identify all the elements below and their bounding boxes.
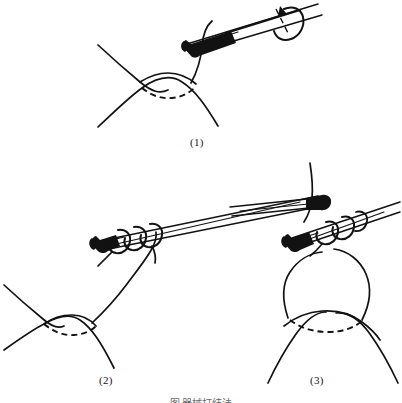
wound-dashed-suture-3 <box>290 320 362 332</box>
panel-2-group <box>4 196 322 368</box>
suture-loop-3 <box>284 249 370 320</box>
suture-strand-3 <box>304 163 312 222</box>
panel-label-2: (2) <box>99 374 113 386</box>
rotation-arrow-1 <box>274 6 303 40</box>
panel-1-group <box>98 4 322 127</box>
figure-root: (1) (2) (3) 图 器械打结法 <box>0 0 402 403</box>
figure-caption: 图 器械打结法 <box>0 394 402 403</box>
wound-edges-2 <box>4 285 114 368</box>
panel-label-3: (3) <box>310 374 324 386</box>
needle-holder-left-3 <box>230 195 331 216</box>
surgical-knot-diagram <box>0 0 402 403</box>
panel-label-1: (1) <box>190 136 204 148</box>
wound-dashed-suture-1 <box>142 86 196 98</box>
wound-edges-3 <box>268 311 398 383</box>
